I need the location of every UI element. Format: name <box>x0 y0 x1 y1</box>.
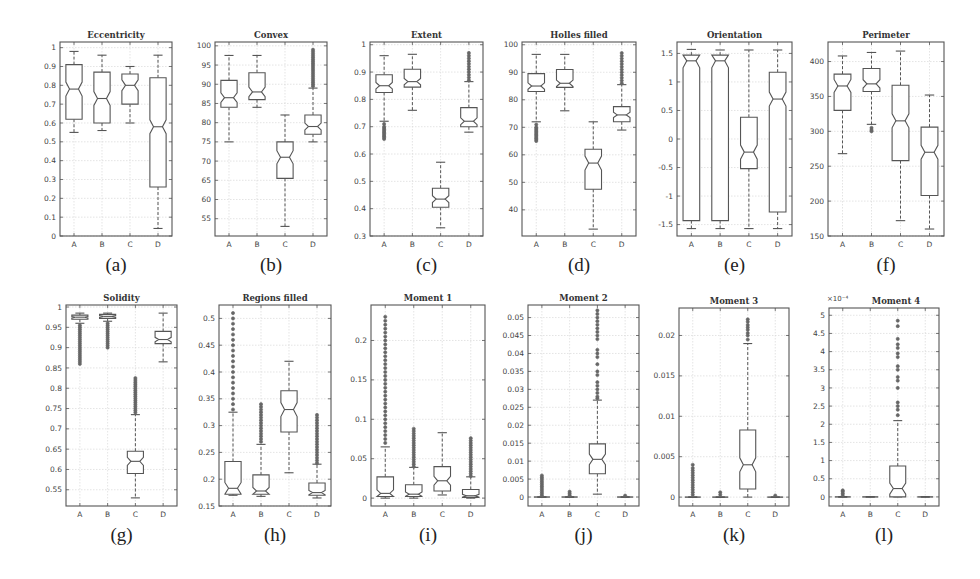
x-tick-label: D <box>922 510 928 519</box>
outlier-point <box>896 401 899 404</box>
y-tick-label: 4 <box>820 347 825 356</box>
outlier-point <box>896 325 899 328</box>
outlier-point <box>896 386 899 389</box>
y-tick-label: 5 <box>820 311 825 320</box>
outlier-point <box>896 375 899 378</box>
y-tick-label: 0.5 <box>813 474 825 483</box>
outlier-point <box>896 404 899 407</box>
outlier-point <box>896 379 899 382</box>
y-tick-label: 1 <box>820 456 825 465</box>
boxplot-svg: 00.511.522.533.544.55ABCD <box>0 0 980 579</box>
box-A <box>835 489 851 497</box>
outlier-point <box>896 343 899 346</box>
y-tick-label: 0 <box>820 493 825 502</box>
outlier-point <box>896 408 899 411</box>
outlier-point <box>896 352 899 355</box>
boxplot-figure: Eccentricity(a)00.10.20.30.40.50.60.70.8… <box>0 0 980 579</box>
y-tick-label: 2 <box>820 420 825 429</box>
outlier-point <box>896 319 899 322</box>
y-tick-label: 4.5 <box>813 329 825 338</box>
y-tick-label: 2.5 <box>813 402 825 411</box>
outlier-point <box>896 368 899 371</box>
y-tick-label: 3 <box>820 384 825 393</box>
outlier-point <box>896 337 899 340</box>
x-tick-label: B <box>868 510 873 519</box>
y-tick-label: 1.5 <box>813 438 825 447</box>
box-C <box>890 319 906 497</box>
outlier-point <box>896 355 899 358</box>
outlier-point <box>896 414 899 417</box>
outlier-point <box>896 365 899 368</box>
x-tick-label: A <box>840 510 846 519</box>
outlier-point <box>896 346 899 349</box>
outlier-point <box>841 489 844 492</box>
x-tick-label: C <box>895 510 900 519</box>
y-tick-label: 3.5 <box>813 365 825 374</box>
